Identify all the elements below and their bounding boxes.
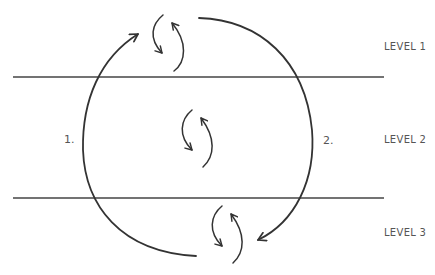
cycle-icon: [212, 206, 242, 263]
level-3-label: LEVEL 3: [384, 227, 426, 238]
level-1-label: LEVEL 1: [384, 41, 426, 52]
path-2-label: 2.: [323, 134, 334, 147]
level-2-label: LEVEL 2: [384, 134, 426, 145]
path-1-arrow: [83, 34, 196, 256]
cycle-icon: [153, 15, 183, 71]
path-1-label: 1.: [64, 133, 75, 146]
path-2-arrow: [199, 18, 312, 240]
cycle-icon: [182, 110, 212, 167]
